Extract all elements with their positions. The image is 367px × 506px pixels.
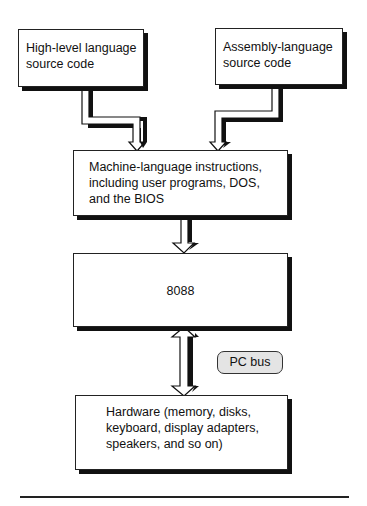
cpu-8088-label: 8088 (74, 283, 287, 299)
machine-language-label: Machine-language instructions, including… (89, 159, 262, 207)
high-level-source-box: High-level language source code (18, 29, 144, 87)
assembly-source-box: Assembly-language source code (215, 28, 343, 85)
assembly-source-label: Assembly-language source code (223, 39, 333, 71)
horizontal-rule (20, 496, 349, 498)
hardware-box: Hardware (memory, disks, keyboard, displ… (75, 395, 288, 470)
arrow-machine-to-cpu (173, 216, 199, 253)
arrow-high-level-to-machine (82, 87, 151, 151)
arrow-assembly-to-machine (210, 85, 283, 151)
machine-language-box: Machine-language instructions, including… (73, 150, 288, 216)
pc-bus-label: PC bus (217, 351, 283, 374)
arrow-cpu-hardware-bus (172, 327, 199, 396)
cpu-8088-box: 8088 (73, 253, 288, 327)
hardware-label: Hardware (memory, disks, keyboard, displ… (106, 404, 259, 452)
high-level-source-label: High-level language source code (26, 40, 137, 72)
